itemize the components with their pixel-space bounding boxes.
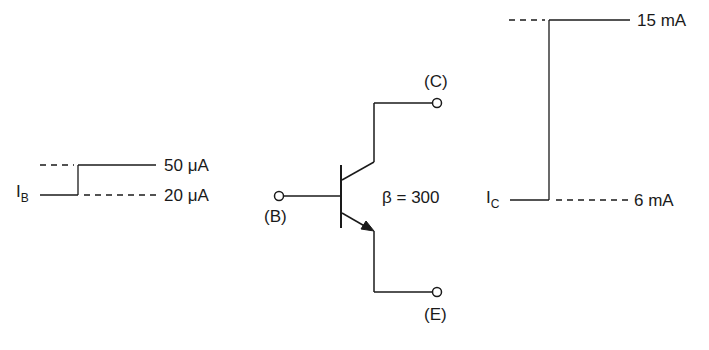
base-current-high-value: 50 μA: [164, 157, 209, 174]
base-current-subscript: B: [21, 191, 29, 205]
collector-current-low-value: 6 mA: [634, 192, 674, 209]
collector-current-subscript: C: [491, 197, 500, 211]
collector-current-high-value: 15 mA: [637, 12, 686, 29]
base-current-symbol: IB: [16, 183, 29, 204]
base-current-waveform: [40, 165, 158, 195]
base-label: (B): [264, 208, 287, 225]
collector-label: (C): [424, 73, 448, 90]
collector-current-symbol: IC: [486, 189, 499, 210]
emitter-label: (E): [424, 306, 447, 323]
base-current-low-value: 20 μA: [164, 187, 209, 204]
diagram-canvas: [0, 0, 709, 350]
beta-label: β = 300: [382, 189, 440, 206]
collector-current-waveform: [509, 20, 630, 200]
